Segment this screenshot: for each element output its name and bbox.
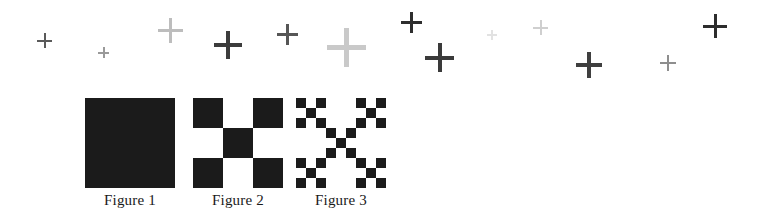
fractal-cell [356,118,366,128]
fractal-cell [356,178,366,188]
fractal-cell [253,98,283,128]
figure-caption: Figure 1 [104,191,156,209]
fractal-cell [296,178,306,188]
plus-icon [214,31,242,59]
fractal-cell [316,178,326,188]
figure-caption: Figure 2 [212,191,264,209]
fractal-cell [356,158,366,168]
plus-icon [703,14,727,38]
figure-2: Figure 2 [193,98,283,188]
plus-icon [158,18,183,43]
fractal-cell [346,148,356,158]
fractal-cell [326,128,336,138]
fractal-cell [296,98,306,108]
fractal-cell [306,108,316,118]
fractal-cell [376,118,386,128]
plus-vertical-bar [587,52,591,78]
plus-vertical-bar [226,31,230,59]
fractal-cell [366,168,376,178]
plus-icon [401,12,422,33]
plus-vertical-bar [169,18,172,43]
plus-vertical-bar [438,43,442,72]
figure-caption: Figure 3 [315,191,367,209]
plus-icon [487,30,497,40]
plus-icon [327,28,366,67]
fractal-cell [223,128,253,158]
figure-3: Figure 3 [296,98,386,188]
fractal-cell [296,158,306,168]
plus-vertical-bar [44,33,46,48]
figure-plate: Figure 1Figure 2Figure 3 [0,0,759,212]
figure-1: Figure 1 [85,98,175,188]
plus-vertical-bar [540,20,542,35]
plus-icon [533,20,548,35]
plus-icon [98,47,109,58]
plus-icon [660,55,676,71]
fractal-canvas [193,98,283,188]
plus-vertical-bar [103,47,105,58]
figures-row: Figure 1Figure 2Figure 3 [0,98,759,212]
fractal-cell [366,108,376,118]
plus-icon [277,24,298,45]
fractal-cell [336,138,346,148]
fractal-cell [376,98,386,108]
fractal-cell [316,118,326,128]
plus-vertical-bar [491,30,493,40]
plus-vertical-bar [410,12,413,33]
fractal-cell [376,158,386,168]
fractal-cell [193,98,223,128]
fractal-cell [376,178,386,188]
plus-icon [576,52,602,78]
fractal-canvas [296,98,386,188]
fractal-cell [85,98,175,188]
fractal-cell [326,148,336,158]
fractal-cell [306,168,316,178]
plus-marks-layer [0,0,759,98]
plus-icon [425,43,454,72]
plus-vertical-bar [714,14,717,38]
fractal-cell [296,118,306,128]
plus-icon [37,33,52,48]
fractal-cell [193,158,223,188]
fractal-cell [316,158,326,168]
plus-vertical-bar [667,55,669,71]
fractal-cell [356,98,366,108]
fractal-cell [316,98,326,108]
fractal-cell [253,158,283,188]
fractal-cell [346,128,356,138]
plus-vertical-bar [286,24,289,45]
plus-vertical-bar [344,28,349,67]
fractal-canvas [85,98,175,188]
